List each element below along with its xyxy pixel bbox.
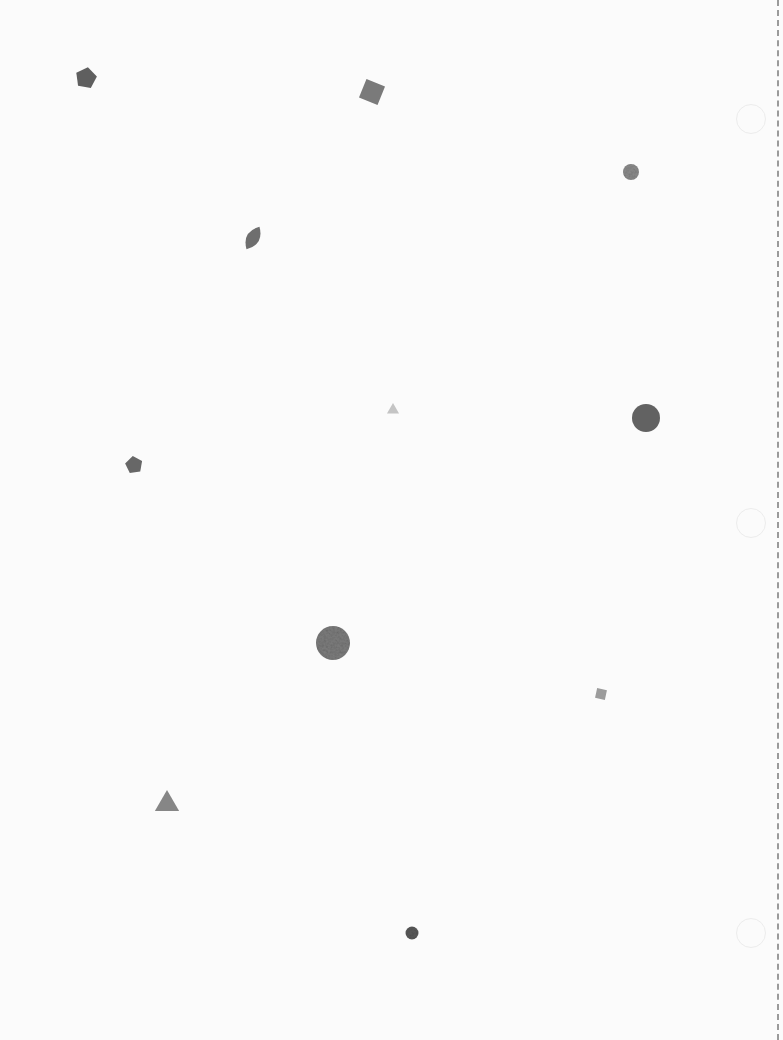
pentagon-shape — [124, 455, 143, 474]
circle-shape — [632, 404, 660, 432]
dashed-edge-line — [777, 0, 779, 1040]
square-shape — [595, 688, 607, 700]
leaf-shape — [241, 224, 265, 253]
shape-layer — [0, 0, 783, 1040]
triangle-shape — [155, 790, 179, 811]
circle-shape — [623, 164, 639, 180]
square-shape — [359, 79, 385, 105]
faint-outline-circle — [736, 104, 766, 134]
circle-shape — [406, 927, 419, 940]
shapes-canvas — [0, 0, 783, 1040]
faint-outline-circle — [736, 508, 766, 538]
triangle-shape — [387, 403, 399, 414]
pentagon-shape — [74, 65, 98, 88]
textured-circle-shape — [316, 626, 350, 660]
faint-outline-circle — [736, 918, 766, 948]
